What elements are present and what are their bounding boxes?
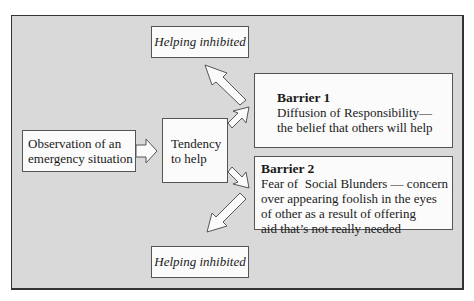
observation-line-1: Observation of an (28, 136, 135, 151)
barrier-1-line-1: Diffusion of Responsibility— (277, 105, 452, 120)
barrier-1-title: Barrier 1 (277, 90, 452, 105)
helping-inhibited-top-label: Helping inhibited (154, 34, 245, 49)
helping-inhibited-bottom-label: Helping inhibited (154, 254, 245, 269)
node-barrier-1: Barrier 1 Diffusion of Responsibility— t… (254, 73, 453, 148)
arrow-tendency-to-barrier2 (228, 167, 249, 188)
observation-line-2: emergency situation (28, 151, 135, 166)
barrier-2-line-2: over appearing foolish in the eyes (261, 191, 452, 206)
node-observation: Observation of an emergency situation (22, 130, 136, 172)
barrier-2-line-3: of other as a result of offering (261, 206, 452, 221)
barrier-2-line-4: aid that’s not really needed (261, 221, 452, 236)
barrier-2-line-1: Fear of Social Blunders — concern (261, 176, 452, 191)
node-helping-inhibited-bottom: Helping inhibited (151, 246, 249, 278)
barrier-2-title: Barrier 2 (261, 161, 452, 176)
tendency-line-2: to help (171, 151, 227, 166)
tendency-line-1: Tendency (171, 136, 227, 151)
arrow-tendency-to-barrier1 (228, 107, 249, 128)
node-helping-inhibited-top: Helping inhibited (151, 26, 249, 58)
arrow-barrier1-to-inhibited-top (205, 65, 246, 105)
arrow-barrier2-to-inhibited-bottom (207, 193, 246, 232)
node-tendency: Tendency to help (162, 118, 228, 183)
node-barrier-2: Barrier 2 Fear of Social Blunders — conc… (254, 156, 453, 230)
arrow-observation-to-tendency (136, 139, 157, 163)
barrier-1-line-2: the belief that others will help (277, 120, 452, 135)
